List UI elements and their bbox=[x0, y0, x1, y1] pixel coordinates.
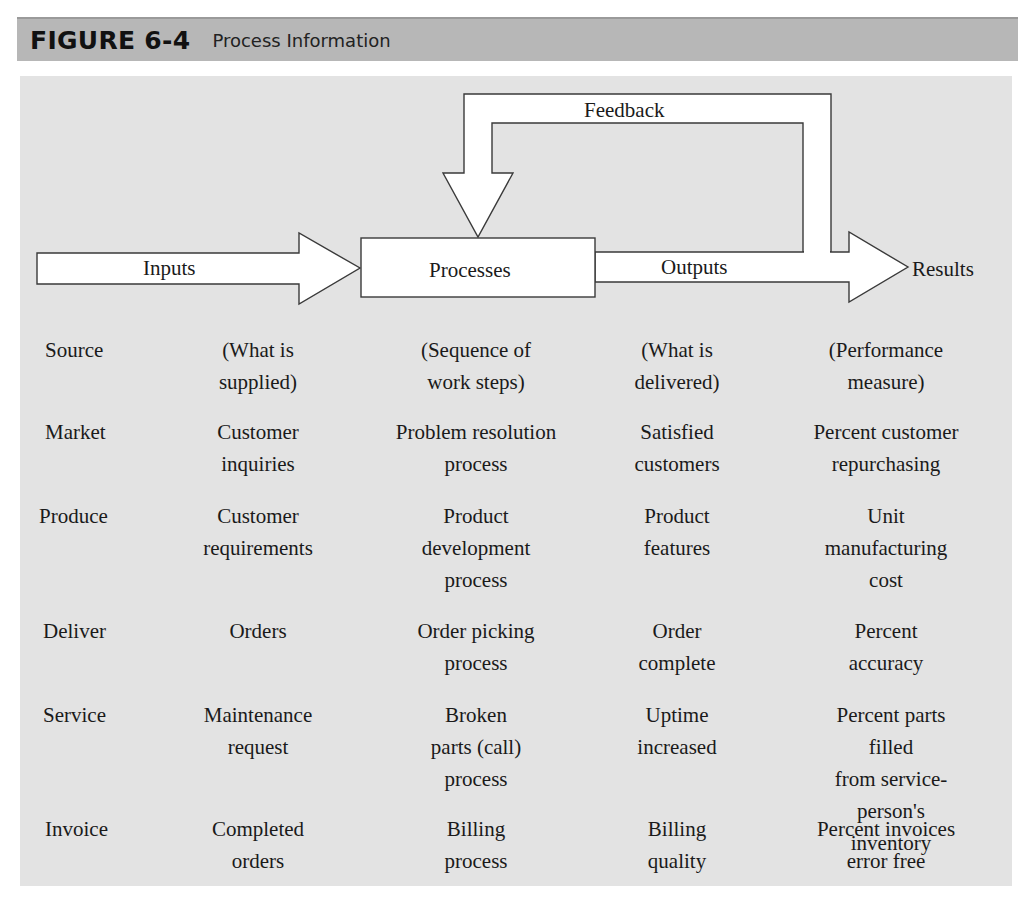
feedback-label: Feedback bbox=[584, 98, 664, 122]
cell-source: Market bbox=[45, 416, 106, 448]
outputs-arrow bbox=[595, 232, 908, 302]
cell-source: Invoice bbox=[45, 813, 108, 845]
cell-process: Problem resolution process bbox=[396, 416, 556, 480]
cell-process: (Sequence of work steps) bbox=[421, 334, 531, 398]
feedback-join bbox=[804, 250, 830, 254]
cell-result: Percent invoices error free bbox=[817, 813, 955, 877]
cell-output: Satisfied customers bbox=[634, 416, 719, 480]
cell-input: Maintenance request bbox=[204, 699, 312, 763]
inputs-label: Inputs bbox=[143, 256, 196, 280]
outputs-label: Outputs bbox=[661, 255, 728, 279]
cell-output: Billing quality bbox=[648, 813, 706, 877]
cell-process: Product development process bbox=[422, 500, 530, 596]
cell-source: Source bbox=[45, 334, 103, 366]
cell-result: Percent customer repurchasing bbox=[813, 416, 958, 480]
cell-source: Service bbox=[43, 699, 106, 731]
cell-output: Product features bbox=[644, 500, 710, 564]
cell-input: Customer requirements bbox=[203, 500, 313, 564]
cell-process: Broken parts (call) process bbox=[431, 699, 521, 795]
cell-result: (Performance measure) bbox=[829, 334, 943, 398]
cell-process: Billing process bbox=[445, 813, 508, 877]
cell-input: Orders bbox=[229, 615, 286, 647]
inputs-arrow bbox=[37, 233, 360, 304]
cell-source: Deliver bbox=[43, 615, 106, 647]
results-label: Results bbox=[912, 257, 974, 281]
cell-process: Order picking process bbox=[417, 615, 534, 679]
cell-source: Produce bbox=[39, 500, 108, 532]
cell-result: Unit manufacturing cost bbox=[825, 500, 947, 596]
cell-result: Percent accuracy bbox=[849, 615, 924, 679]
cell-output: (What is delivered) bbox=[634, 334, 719, 398]
cell-input: (What is supplied) bbox=[219, 334, 297, 398]
cell-output: Order complete bbox=[639, 615, 716, 679]
cell-output: Uptime increased bbox=[637, 699, 716, 763]
cell-input: Customer inquiries bbox=[217, 416, 299, 480]
cell-input: Completed orders bbox=[212, 813, 304, 877]
processes-label: Processes bbox=[429, 258, 511, 282]
